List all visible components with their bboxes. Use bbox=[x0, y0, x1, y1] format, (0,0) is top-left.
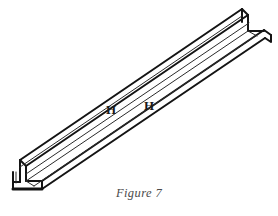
angle-beam-drawing bbox=[0, 0, 278, 216]
base-top-inner-edge bbox=[26, 31, 248, 181]
web-top-far-edge bbox=[20, 9, 242, 160]
figure-caption: Figure 7 bbox=[0, 186, 278, 201]
web-top-near-edge bbox=[26, 15, 248, 166]
web-outer-face bbox=[20, 9, 248, 166]
mark-h-left: H bbox=[106, 103, 116, 116]
web-base-inside-crease bbox=[26, 23, 249, 174]
base-front-bottom-edge bbox=[42, 38, 265, 189]
figure-stage: H H Figure 7 bbox=[0, 0, 278, 216]
right-base-thickness bbox=[265, 35, 271, 42]
right-base-far-edge bbox=[264, 30, 271, 35]
mark-h-right: H bbox=[144, 99, 154, 112]
web-outer-lower-edge bbox=[20, 16, 242, 167]
